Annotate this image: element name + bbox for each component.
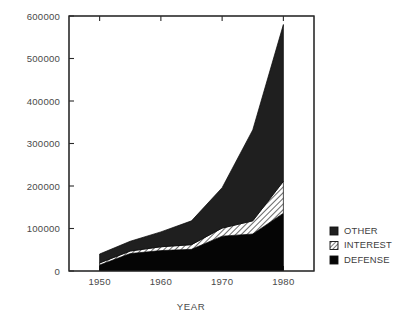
- legend-label-other: OTHER: [344, 225, 378, 236]
- y-tick-label: 500000: [27, 53, 60, 64]
- y-tick-label: 0: [54, 266, 60, 277]
- y-tick-label: 600000: [27, 11, 60, 22]
- y-tick-label: 200000: [27, 181, 60, 192]
- y-tick-label: 400000: [27, 96, 60, 107]
- legend-label-interest: INTEREST: [344, 239, 392, 250]
- x-tick-label: 1950: [89, 276, 111, 287]
- legend-swatch-interest: [330, 242, 338, 250]
- x-tick-label: 1960: [150, 276, 172, 287]
- legend-swatch-defense: [330, 256, 338, 264]
- x-tick-label: 1980: [272, 276, 294, 287]
- y-tick-label: 100000: [27, 223, 60, 234]
- chart-background: [0, 0, 404, 321]
- y-tick-label: 300000: [27, 138, 60, 149]
- legend-swatch-other: [330, 227, 338, 235]
- stacked-area-chart: 0100000200000300000400000500000600000 19…: [0, 0, 404, 321]
- x-tick-label: 1970: [211, 276, 233, 287]
- x-axis-title: YEAR: [177, 301, 206, 312]
- legend-label-defense: DEFENSE: [344, 254, 390, 265]
